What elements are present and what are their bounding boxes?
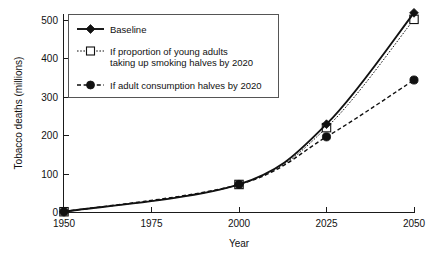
x-tick-label-2000: 2000: [228, 218, 251, 229]
legend-label-adult-consumption: If adult consumption halves by 2020: [110, 80, 262, 91]
chart-container: 0 100 200 300 400 500 1950 1975 2000 202…: [0, 0, 429, 264]
series-line-if-adult-consumption-halves-by-2020: [64, 80, 414, 212]
x-axis-tick-labels: 1950 1975 2000 2025 2050: [53, 218, 426, 229]
legend-label-young-adults-line2: taking up smoking halves by 2020: [110, 57, 253, 68]
x-tick-label-1975: 1975: [140, 218, 163, 229]
y-tick-label-400: 400: [41, 53, 58, 64]
y-tick-label-300: 300: [41, 92, 58, 103]
legend-label-young-adults-line1: If proportion of young adults: [110, 46, 228, 57]
y-tick-label-100: 100: [41, 169, 58, 180]
x-axis-title: Year: [229, 238, 250, 249]
x-tick-label-2025: 2025: [315, 218, 338, 229]
y-tick-label-0: 0: [52, 207, 58, 218]
y-tick-label-200: 200: [41, 130, 58, 141]
y-axis-title: Tobacco deaths (millions): [13, 57, 24, 170]
data-point-filled-circle: [322, 133, 330, 141]
open-square-icon: [87, 47, 95, 55]
legend-label-baseline: Baseline: [110, 24, 146, 35]
x-tick-label-2050: 2050: [403, 218, 426, 229]
x-tick-label-1950: 1950: [53, 218, 76, 229]
y-axis-tick-labels: 0 100 200 300 400 500: [41, 15, 58, 218]
y-tick-label-500: 500: [41, 15, 58, 26]
x-axis-ticks: [64, 207, 414, 213]
line-chart: 0 100 200 300 400 500 1950 1975 2000 202…: [0, 0, 429, 264]
data-point-filled-circle: [410, 76, 418, 84]
filled-circle-icon: [87, 81, 95, 89]
chart-legend: Baseline If proportion of young adults t…: [69, 15, 279, 98]
